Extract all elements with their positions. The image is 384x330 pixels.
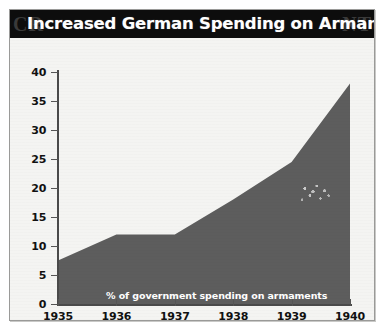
plot-region: % of government spending on armaments 05… [10,38,375,321]
x-axis-tick-label: 1939 [268,310,316,321]
x-axis-tick-label: 1940 [326,310,374,321]
y-axis-tick-label: 10 [18,241,46,252]
chart-figure: CR NT Increased German Spending on Armam… [9,9,375,321]
y-axis-tick-label: 20 [18,183,46,194]
chart-title-bar: CR NT Increased German Spending on Armam… [10,10,375,38]
x-axis-tick [350,299,351,306]
y-axis-tick-label: 0 [18,299,46,310]
x-axis-line [57,304,352,306]
y-axis-tick [51,159,58,160]
x-axis-tick-label: 1936 [92,310,140,321]
y-axis-tick [51,72,58,73]
y-axis-tick-label: 15 [18,212,46,223]
chart-title: Increased German Spending on Armaments [27,14,375,33]
y-axis-tick [51,275,58,276]
x-axis-tick [58,299,59,306]
y-axis-tick [51,188,58,189]
y-axis-tick [51,246,58,247]
y-axis-tick-label: 35 [18,96,46,107]
y-axis-tick [51,304,58,305]
x-axis-tick-label: 1938 [209,310,257,321]
y-axis-tick-label: 40 [18,67,46,78]
x-axis-tick-label: 1937 [151,310,199,321]
x-axis-tick-label: 1935 [34,310,82,321]
plot-area [58,72,350,304]
y-axis-tick-label: 5 [18,270,46,281]
y-axis-tick-label: 30 [18,125,46,136]
y-axis-tick [51,101,58,102]
series-caption-label: % of government spending on armaments [106,290,327,301]
y-axis-tick [51,217,58,218]
area-series-armaments [58,72,350,304]
y-axis-tick-label: 25 [18,154,46,165]
y-axis-tick [51,130,58,131]
